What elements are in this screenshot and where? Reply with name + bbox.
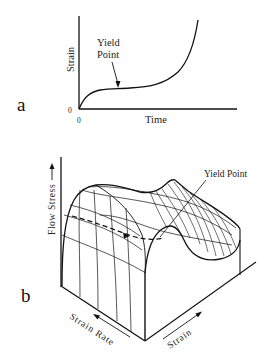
figure-canvas: Yield Point Strain Time 0 0 [0, 0, 272, 354]
panel-b-yield-point-label: Yield Point [204, 169, 247, 179]
panel-a-strain-time-plot: Yield Point Strain Time 0 0 [65, 16, 237, 125]
panel-a-y-origin-tick: 0 [68, 106, 72, 115]
panel-a-annotation-line1: Yield [97, 37, 120, 48]
panel-b-front-face-arc [145, 226, 240, 273]
panel-b-grid-line [110, 196, 117, 321]
panel-a-y-axis-label: Strain [65, 46, 76, 72]
panel-a-annotation-line2: Point [97, 49, 119, 60]
panel-b-flow-stress-arrowhead-icon [50, 163, 55, 169]
panel-b-hatch-line [150, 192, 166, 226]
panel-a-x-axis-label: Time [145, 114, 167, 125]
panel-b-strain-arrowhead-icon [196, 312, 203, 318]
panel-a-yield-arrow-line [112, 62, 118, 84]
panel-b-flow-stress-label: Flow Stress [47, 184, 57, 235]
panel-b-flow-stress-surface [50, 157, 257, 341]
panel-a-yield-arrowhead-icon [116, 81, 121, 88]
panel-b-base-right-edge [145, 262, 256, 341]
panel-a-strain-curve [79, 20, 198, 109]
panel-b-grid-line [79, 190, 80, 297]
panel-b-grid-line [62, 235, 146, 273]
panel-b-grid-line [64, 215, 142, 250]
panel-b-hatch-line [190, 193, 224, 256]
panel-b-strain-label: Strain [165, 327, 193, 351]
panel-a-x-origin-tick: 0 [77, 116, 81, 125]
panel-b-grid-line [126, 208, 131, 332]
panel-b-grid-line [82, 190, 232, 235]
panel-b-back-ridge [96, 180, 240, 229]
panel-b-strain-rate-arrowhead-icon [93, 314, 100, 320]
